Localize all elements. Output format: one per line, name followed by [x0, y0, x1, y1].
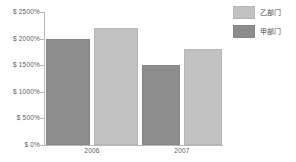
- legend-swatch-icon: [233, 6, 255, 19]
- bar-chart: $ 2500% $ 2000% $ 1500% $ 1000% $ 500% $…: [0, 0, 296, 162]
- plot-area: [44, 12, 222, 145]
- y-axis-tick-label: $ 2500%: [0, 9, 40, 16]
- legend-item-label: 甲部门: [260, 28, 281, 35]
- bar-2007-jia: [142, 65, 180, 145]
- legend: 乙部门 甲部门: [233, 6, 293, 44]
- y-axis-tick-label: $ 0%: [0, 142, 40, 149]
- y-axis-tick-label: $ 1000%: [0, 89, 40, 96]
- legend-swatch-icon: [233, 25, 255, 38]
- y-axis-tick-label: $ 2000%: [0, 36, 40, 43]
- bar-2007-yi: [184, 49, 222, 145]
- x-axis-line: [44, 145, 223, 146]
- legend-item-yi[interactable]: 乙部门: [233, 6, 293, 19]
- y-axis-tick-label: $ 1500%: [0, 62, 40, 69]
- bar-2006-jia: [46, 39, 90, 145]
- x-axis-tick-label: 2007: [144, 148, 220, 155]
- x-axis-tick-label: 2006: [46, 148, 138, 155]
- y-axis-tick-label: $ 500%: [0, 115, 40, 122]
- bar-2006-yi: [94, 28, 138, 145]
- legend-item-label: 乙部门: [260, 9, 281, 16]
- legend-item-jia[interactable]: 甲部门: [233, 25, 293, 38]
